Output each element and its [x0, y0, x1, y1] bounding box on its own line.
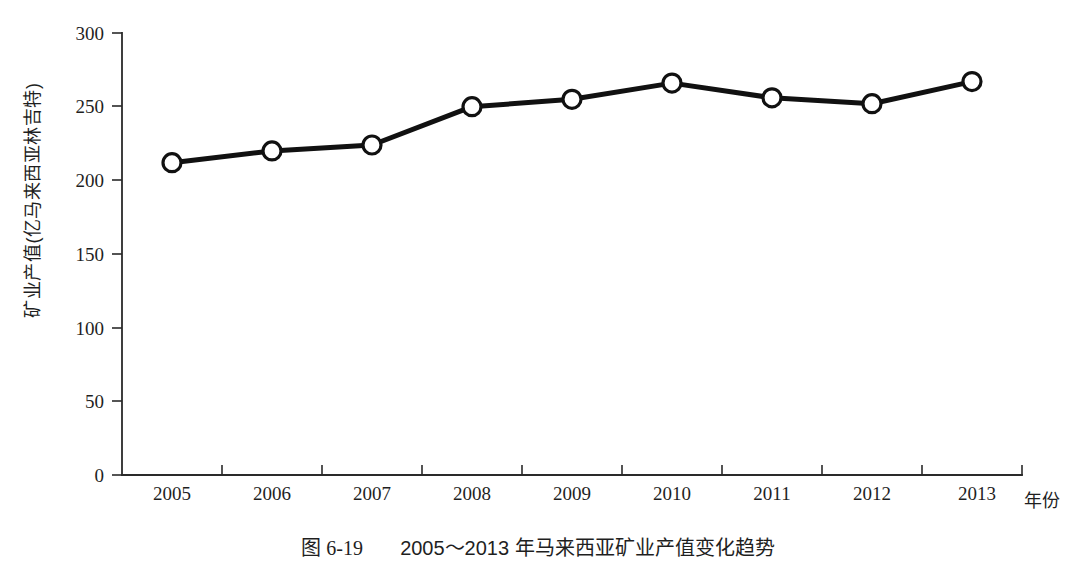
y-tick-label: 0: [95, 465, 105, 486]
data-point-marker: [463, 98, 481, 116]
data-point-marker: [963, 73, 981, 91]
data-point-marker: [763, 89, 781, 107]
x-tick-label: 2012: [853, 483, 891, 504]
figure-container: 300 250 200 150 100 50 0 2005 2006 2007 …: [0, 0, 1076, 578]
figure-caption: 图 6-19 2005～2013 年马来西亚矿业产值变化趋势: [0, 532, 1076, 561]
x-tick-label: 2007: [353, 483, 391, 504]
x-tick-label: 2008: [453, 483, 491, 504]
y-tick-label: 250: [76, 96, 105, 117]
data-point-marker: [663, 74, 681, 92]
x-tick-label: 2005: [153, 483, 191, 504]
x-tick-label: 2013: [958, 483, 996, 504]
y-axis-title: 矿业产值(亿马来西亚林吉特): [18, 0, 48, 430]
data-point-marker: [563, 90, 581, 108]
figure-caption-number: 图 6-19: [301, 537, 363, 559]
x-tick-label: 2010: [653, 483, 691, 504]
x-axis-tick-labels: 2005 2006 2007 2008 2009 2010 2011 2012 …: [153, 483, 996, 504]
y-axis-ticks: [112, 33, 122, 475]
x-axis-ticks: [222, 465, 1022, 475]
data-point-marker: [363, 136, 381, 154]
y-tick-label: 300: [76, 23, 105, 44]
data-point-markers: [163, 73, 981, 172]
figure-caption-text: 2005～2013 年马来西亚矿业产值变化趋势: [400, 537, 775, 559]
x-tick-label: 2006: [253, 483, 291, 504]
y-axis-tick-labels: 300 250 200 150 100 50 0: [76, 23, 105, 486]
y-tick-label: 150: [76, 244, 105, 265]
x-axis-title: 年份: [1024, 486, 1060, 512]
data-point-marker: [263, 142, 281, 160]
line-chart: 300 250 200 150 100 50 0 2005 2006 2007 …: [0, 0, 1076, 530]
y-tick-label: 200: [76, 170, 105, 191]
x-tick-label: 2011: [753, 483, 790, 504]
data-point-marker: [163, 154, 181, 172]
y-tick-label: 50: [85, 391, 104, 412]
x-tick-label: 2009: [553, 483, 591, 504]
y-tick-label: 100: [76, 318, 105, 339]
data-point-marker: [863, 95, 881, 113]
